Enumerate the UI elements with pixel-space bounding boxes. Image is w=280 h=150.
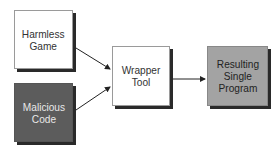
arrow-malicious-to-wrapper	[76, 87, 110, 110]
arrow-harmless-to-wrapper	[76, 48, 110, 69]
malicious-code-label: Malicious Code	[22, 101, 64, 125]
harmless-game-node: Harmless Game	[14, 10, 73, 69]
wrapper-tool-label: Wrapper Tool	[122, 64, 161, 88]
malicious-code-node: Malicious Code	[14, 83, 73, 142]
resulting-program-label: Resulting Single Program	[216, 58, 258, 94]
harmless-game-label: Harmless Game	[22, 28, 65, 52]
resulting-program-node: Resulting Single Program	[207, 46, 268, 106]
wrapper-tool-node: Wrapper Tool	[112, 46, 170, 106]
